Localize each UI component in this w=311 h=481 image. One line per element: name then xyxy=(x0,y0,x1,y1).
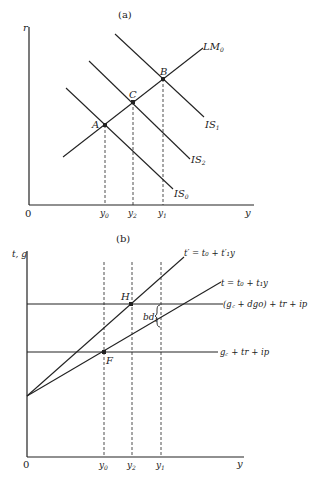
panel-b-labels: H F bd1 t′ = t₀ + t′₁y t = t₀ + t₁y (g꜀ … xyxy=(98,248,308,471)
panel-b-y-label: t, g xyxy=(12,249,27,259)
tick-b-y2: y2 xyxy=(126,460,136,471)
is1-label: IS1 xyxy=(204,119,220,131)
panel-a-x-label: y xyxy=(244,207,251,218)
point-a-marker xyxy=(103,123,107,127)
lower-spending-label: g꜀ + tr + ip xyxy=(220,347,270,357)
point-h-label: H xyxy=(120,291,130,302)
point-h-marker xyxy=(129,302,133,306)
t-label: t = t₀ + t₁y xyxy=(221,278,268,288)
panel-a-title: (a) xyxy=(118,9,132,20)
tick-a-y0: y0 xyxy=(99,208,109,219)
panel-b: (b) t, g 0 y xyxy=(12,233,244,470)
point-c-marker xyxy=(131,100,135,104)
panel-b-x-label: y xyxy=(236,458,243,469)
tick-b-y1: y1 xyxy=(155,460,165,471)
lm0-label: LM0 xyxy=(202,41,224,53)
is0-curve xyxy=(66,88,173,189)
tick-a-y2: y2 xyxy=(127,208,137,219)
bd1-label: bd1 xyxy=(143,312,158,323)
point-b-marker xyxy=(161,77,165,81)
panel-b-title: (b) xyxy=(116,233,130,244)
t-prime-label: t′ = t₀ + t′₁y xyxy=(184,248,235,258)
point-a-label: A xyxy=(91,119,99,130)
point-c-label: C xyxy=(129,89,137,100)
panel-b-origin: 0 xyxy=(23,459,29,470)
is2-curve xyxy=(89,61,190,159)
tick-b-y0: y0 xyxy=(98,460,108,471)
point-f-label: F xyxy=(105,355,114,366)
is2-label: IS2 xyxy=(190,154,206,166)
t-prime-line xyxy=(27,257,184,396)
panel-a-origin: 0 xyxy=(25,208,31,219)
tick-a-y1: y1 xyxy=(157,208,167,219)
is0-label: IS0 xyxy=(173,188,189,200)
point-b-label: B xyxy=(159,66,167,77)
upper-spending-label: (g꜀ + dgo) + tr + ip xyxy=(223,299,308,309)
diagram-canvas: (a) r 0 y A C B LM0 IS1 IS2 IS0 y0 y2 y1 xyxy=(0,0,311,481)
point-f-marker xyxy=(102,350,106,354)
panel-a-y-label: r xyxy=(23,22,29,33)
